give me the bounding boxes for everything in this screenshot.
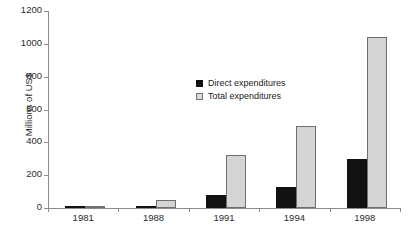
y-tick: 1200	[48, 11, 49, 12]
bar-total-expenditures	[296, 126, 316, 208]
bar-direct-expenditures	[65, 206, 85, 208]
y-tick-label: 800	[26, 70, 42, 81]
bar-chart: Millions of US$ 020040060080010001200 19…	[0, 0, 408, 246]
y-tick-label: 1000	[21, 37, 42, 48]
bar-group	[276, 11, 316, 208]
x-tick-label: 1998	[335, 212, 395, 223]
bar-group	[206, 11, 246, 208]
y-tick-mark	[44, 142, 48, 143]
x-tick-mark	[330, 208, 331, 212]
y-tick-mark	[44, 44, 48, 45]
bar-group	[347, 11, 387, 208]
y-tick-label: 400	[26, 135, 42, 146]
y-tick-label: 600	[26, 103, 42, 114]
legend-swatch-total	[196, 93, 203, 100]
bar-direct-expenditures	[276, 187, 296, 208]
y-tick-label: 200	[26, 168, 42, 179]
bar-direct-expenditures	[347, 159, 367, 208]
bar-total-expenditures	[367, 37, 387, 208]
y-tick: 600	[48, 110, 49, 111]
x-tick-label: 1988	[124, 212, 184, 223]
bar-total-expenditures	[85, 206, 105, 208]
y-tick-label: 0	[37, 201, 42, 212]
legend-label: Direct expenditures	[208, 78, 286, 88]
x-tick-mark	[400, 208, 401, 212]
bar-total-expenditures	[226, 155, 246, 208]
y-tick: 200	[48, 175, 49, 176]
y-tick: 400	[48, 142, 49, 143]
x-axis-line	[48, 208, 400, 209]
x-tick-label: 1994	[264, 212, 324, 223]
y-tick-mark	[44, 110, 48, 111]
x-tick-mark	[118, 208, 119, 212]
bar-total-expenditures	[156, 200, 176, 208]
x-tick-mark	[189, 208, 190, 212]
x-tick-mark	[48, 208, 49, 212]
y-tick: 1000	[48, 44, 49, 45]
legend-item: Direct expenditures	[196, 78, 286, 88]
y-tick-mark	[44, 77, 48, 78]
y-tick-mark	[44, 11, 48, 12]
bar-group	[65, 11, 105, 208]
y-tick-label: 1200	[21, 4, 42, 15]
legend-label: Total expenditures	[208, 91, 281, 101]
x-tick-mark	[259, 208, 260, 212]
y-tick-mark	[44, 175, 48, 176]
x-tick-label: 1981	[53, 212, 113, 223]
chart-legend: Direct expendituresTotal expenditures	[196, 78, 286, 104]
bar-group	[136, 11, 176, 208]
plot-area: 020040060080010001200 198119881991199419…	[48, 11, 400, 208]
y-tick: 800	[48, 77, 49, 78]
bar-direct-expenditures	[136, 206, 156, 208]
bar-direct-expenditures	[206, 195, 226, 208]
legend-swatch-direct	[196, 80, 203, 87]
x-tick-label: 1991	[194, 212, 254, 223]
legend-item: Total expenditures	[196, 91, 286, 101]
